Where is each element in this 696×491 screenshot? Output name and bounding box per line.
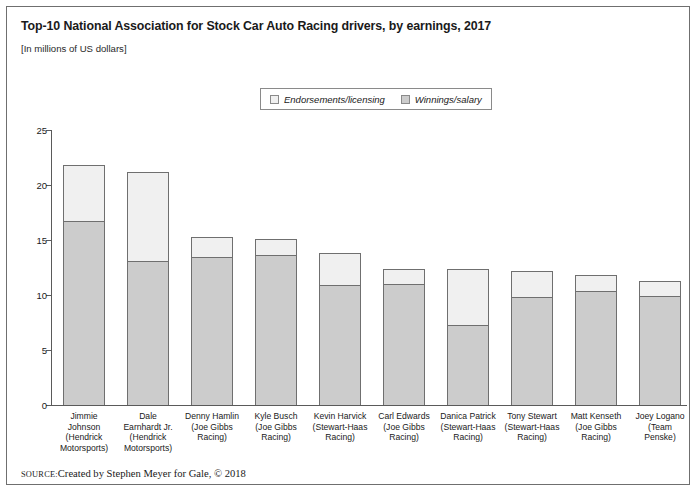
plot-area: 0510152025 (51, 130, 687, 405)
y-tick-label: 5 (42, 345, 47, 356)
bar-segment-winnings[interactable] (447, 325, 489, 405)
legend-swatch-icon-endorsements (270, 95, 279, 104)
x-axis-label-9: Matt Kenseth(Joe GibbsRacing) (564, 411, 628, 443)
x-axis-label-line: Dale (116, 411, 180, 422)
bar-segment-winnings[interactable] (383, 284, 425, 405)
bar-5[interactable] (319, 253, 361, 405)
x-axis-label-line: Matt Kenseth (564, 411, 628, 422)
x-axis-label-line: (Stewart-Haas (308, 422, 372, 433)
x-axis-labels: JimmieJohnson(HendrickMotorsports)DaleEa… (51, 411, 687, 463)
bar-8[interactable] (511, 271, 553, 405)
x-axis-label-7: Danica Patrick(Stewart-HaasRacing) (436, 411, 500, 443)
source-keyword: SOURCE: (21, 470, 58, 479)
x-axis-label-line: Racing) (244, 432, 308, 443)
x-axis-label-6: Carl Edwards(Joe GibbsRacing) (372, 411, 436, 443)
x-axis-label-line: Jimmie (52, 411, 116, 422)
bar-segment-winnings[interactable] (575, 291, 617, 405)
legend-swatch-icon-winnings (401, 95, 410, 104)
y-tick-label: 20 (36, 180, 47, 191)
y-tick-label: 0 (42, 400, 47, 411)
x-axis-label-line: (Hendrick (52, 432, 116, 443)
bar-segment-endorsements[interactable] (511, 271, 553, 297)
bar-7[interactable] (447, 269, 489, 405)
x-axis-label-10: Joey Logano(TeamPenske) (628, 411, 692, 443)
x-axis-label-line: Racing) (500, 432, 564, 443)
bar-10[interactable] (639, 281, 681, 405)
figure-frame: Top-10 National Association for Stock Ca… (6, 6, 690, 485)
x-axis-label-line: (Joe Gibbs (244, 422, 308, 433)
legend-item-label: Winnings/salary (415, 94, 482, 105)
bar-segment-winnings[interactable] (639, 296, 681, 405)
bar-4[interactable] (255, 239, 297, 405)
source-text: Created by Stephen Meyer for Gale, © 201… (58, 468, 246, 479)
bar-segment-endorsements[interactable] (127, 172, 169, 261)
y-axis-line (51, 130, 52, 405)
bar-segment-winnings[interactable] (255, 255, 297, 405)
x-axis-label-line: (Stewart-Haas (500, 422, 564, 433)
x-axis-label-2: DaleEarnhardt Jr.(HendrickMotorsports) (116, 411, 180, 453)
x-axis-label-line: Denny Hamlin (180, 411, 244, 422)
x-axis-label-line: Racing) (180, 432, 244, 443)
x-axis-label-line: Joey Logano (628, 411, 692, 422)
x-axis-label-line: Kevin Harvick (308, 411, 372, 422)
chart-figure: Top-10 National Association for Stock Ca… (0, 0, 696, 491)
bar-9[interactable] (575, 275, 617, 405)
bar-2[interactable] (127, 172, 169, 405)
x-axis-label-line: (Team (628, 422, 692, 433)
x-axis-label-line: Racing) (308, 432, 372, 443)
x-axis-label-line: (Joe Gibbs (564, 422, 628, 433)
x-axis-label-line: Tony Stewart (500, 411, 564, 422)
bar-segment-winnings[interactable] (127, 261, 169, 405)
x-axis-label-line: (Hendrick (116, 432, 180, 443)
bar-segment-endorsements[interactable] (639, 281, 681, 296)
chart-legend: Endorsements/licensingWinnings/salary (260, 88, 492, 110)
y-tick-label: 10 (36, 290, 47, 301)
bar-1[interactable] (63, 165, 105, 405)
x-axis-label-line: (Joe Gibbs (372, 422, 436, 433)
x-axis-label-line: Racing) (436, 432, 500, 443)
x-axis-label-line: Racing) (564, 432, 628, 443)
x-axis-label-1: JimmieJohnson(HendrickMotorsports) (52, 411, 116, 453)
bar-segment-winnings[interactable] (511, 297, 553, 405)
legend-item-endorsements[interactable]: Endorsements/licensing (270, 94, 385, 105)
bar-segment-endorsements[interactable] (63, 165, 105, 221)
x-axis-label-4: Kyle Busch(Joe GibbsRacing) (244, 411, 308, 443)
bar-segment-endorsements[interactable] (319, 253, 361, 285)
x-axis-label-line: Johnson (52, 422, 116, 433)
x-axis-label-line: Kyle Busch (244, 411, 308, 422)
x-axis-label-line: Penske) (628, 432, 692, 443)
x-axis-label-8: Tony Stewart(Stewart-HaasRacing) (500, 411, 564, 443)
bar-segment-endorsements[interactable] (575, 275, 617, 290)
bar-segment-endorsements[interactable] (255, 239, 297, 256)
legend-item-label: Endorsements/licensing (284, 94, 385, 105)
x-axis-label-line: Racing) (372, 432, 436, 443)
x-axis-label-line: Carl Edwards (372, 411, 436, 422)
x-axis-label-line: Motorsports) (116, 443, 180, 454)
bar-segment-winnings[interactable] (191, 257, 233, 406)
x-axis-label-line: (Joe Gibbs (180, 422, 244, 433)
y-tick-label: 15 (36, 235, 47, 246)
x-axis-label-line: Earnhardt Jr. (116, 422, 180, 433)
legend-item-winnings[interactable]: Winnings/salary (401, 94, 482, 105)
bar-segment-endorsements[interactable] (191, 237, 233, 257)
x-axis-label-line: Danica Patrick (436, 411, 500, 422)
x-axis-label-line: Motorsports) (52, 443, 116, 454)
bar-segment-endorsements[interactable] (447, 269, 489, 325)
x-axis-line (51, 405, 687, 406)
x-axis-label-line: (Stewart-Haas (436, 422, 500, 433)
bar-6[interactable] (383, 269, 425, 405)
y-tick-label: 25 (36, 125, 47, 136)
bar-segment-endorsements[interactable] (383, 269, 425, 284)
bar-segment-winnings[interactable] (319, 285, 361, 405)
x-axis-label-5: Kevin Harvick(Stewart-HaasRacing) (308, 411, 372, 443)
x-axis-label-3: Denny Hamlin(Joe GibbsRacing) (180, 411, 244, 443)
figure-subtitle: [In millions of US dollars] (21, 43, 127, 54)
source-note: SOURCE:Created by Stephen Meyer for Gale… (21, 468, 246, 479)
page-title: Top-10 National Association for Stock Ca… (21, 19, 491, 33)
bar-3[interactable] (191, 237, 233, 405)
bar-segment-winnings[interactable] (63, 221, 105, 405)
